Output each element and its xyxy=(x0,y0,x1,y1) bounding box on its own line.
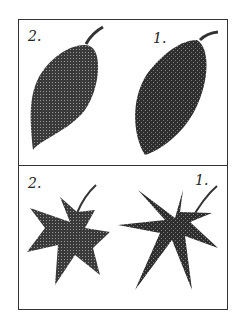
leaf-1-bottom xyxy=(118,186,218,290)
leaf-2-bottom xyxy=(27,185,110,285)
leaf-illustrations xyxy=(0,0,243,330)
leaf-1-top xyxy=(135,32,218,155)
leaf-2-top xyxy=(31,27,103,150)
